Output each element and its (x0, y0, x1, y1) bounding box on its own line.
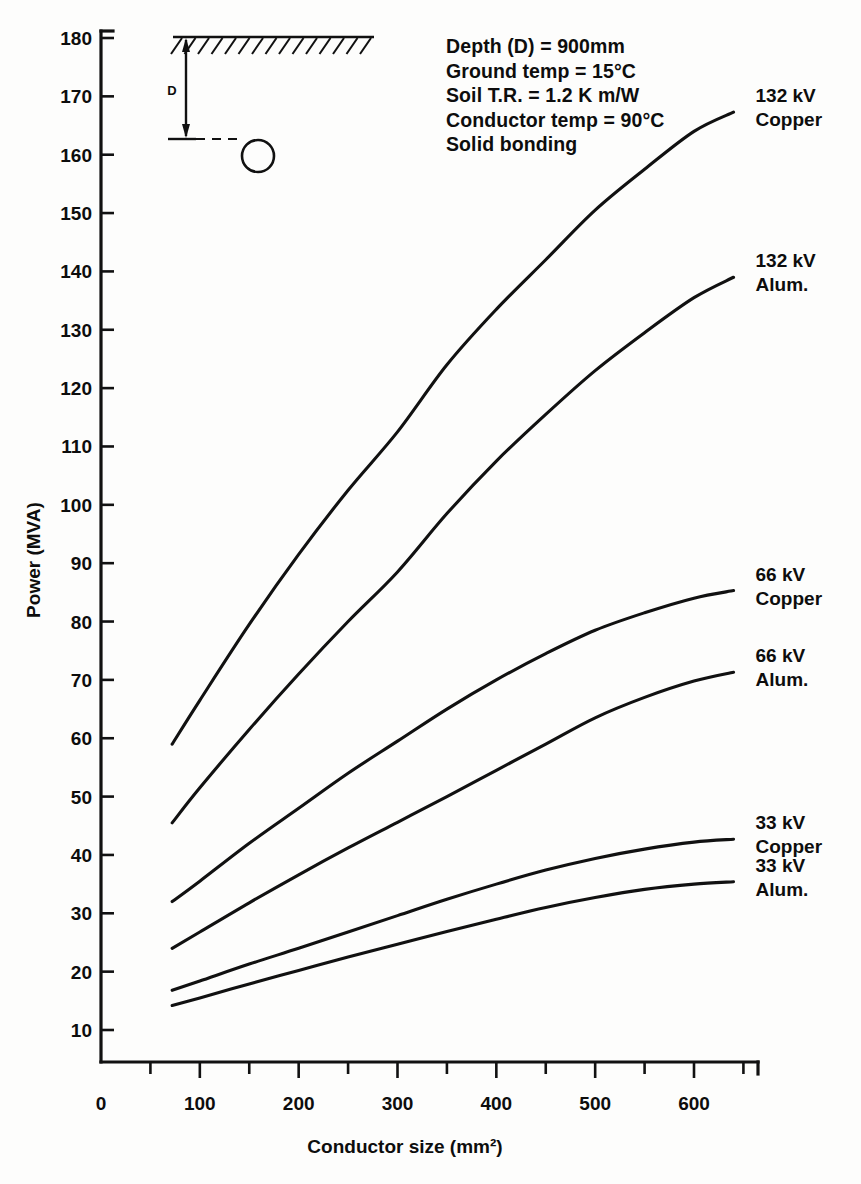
hatch-stroke (252, 38, 263, 54)
y-tick-label: 130 (60, 320, 92, 341)
depth-arrow-down-icon (182, 124, 190, 138)
series-curve (172, 839, 733, 990)
series-labels: 132 kVCopper132 kVAlum.66 kVCopper66 kVA… (756, 85, 823, 900)
annotation-line: Soil T.R. = 1.2 K m/W (446, 84, 640, 106)
y-tick-label: 170 (60, 86, 92, 107)
y-tick-label: 150 (60, 203, 92, 224)
series-curve (172, 112, 733, 744)
depth-arrow-up-icon (182, 38, 190, 52)
y-tick-label: 80 (71, 612, 92, 633)
series-label-line: Alum. (756, 669, 809, 690)
hatch-stroke (306, 38, 317, 54)
hatch-stroke (198, 38, 209, 54)
y-tick-label: 110 (61, 436, 92, 457)
axes-group (101, 31, 758, 1074)
x-tick-label: 100 (184, 1093, 216, 1114)
hatch-stroke (333, 38, 344, 54)
annotation-line: Ground temp = 15°C (446, 60, 636, 82)
inset-depth-label: D (167, 83, 176, 98)
series-label-line: 132 kV (756, 250, 817, 271)
hatch-stroke (360, 38, 371, 54)
hatch-stroke (266, 38, 277, 54)
hatch-stroke (347, 38, 358, 54)
series-label-line: Alum. (756, 274, 809, 295)
hatch-stroke (212, 38, 223, 54)
ground-hatching-icon (171, 38, 371, 54)
x-tick-label: 500 (579, 1093, 611, 1114)
y-tick-label: 40 (71, 845, 92, 866)
series-curves (172, 112, 733, 1005)
y-tick-label: 30 (71, 903, 92, 924)
series-label-group: 132 kVAlum. (756, 250, 817, 295)
y-tick-label: 90 (71, 553, 92, 574)
x-tick-label: 400 (480, 1093, 512, 1114)
hatch-stroke (320, 38, 331, 54)
y-tick-label: 100 (60, 495, 92, 516)
chart-figure: 1020304050607080901001101201301401501601… (0, 0, 861, 1184)
x-tick-label: 600 (678, 1093, 710, 1114)
series-label-line: 33 kV (756, 855, 806, 876)
y-tick-label: 140 (60, 261, 92, 282)
series-curve (172, 672, 733, 948)
series-label-line: Alum. (756, 879, 809, 900)
series-label-line: 33 kV (756, 812, 806, 833)
y-tick-label: 160 (60, 145, 92, 166)
y-tick-label: 60 (71, 728, 92, 749)
series-label-group: 66 kVCopper (756, 564, 823, 609)
hatch-stroke (293, 38, 304, 54)
series-label-group: 66 kVAlum. (756, 645, 809, 690)
cable-circle-icon (242, 140, 274, 172)
y-axis-ticks: 1020304050607080901001101201301401501601… (60, 28, 114, 1041)
hatch-stroke (279, 38, 290, 54)
series-label-line: 66 kV (756, 645, 806, 666)
x-tick-label: 200 (283, 1093, 315, 1114)
x-axis-title: Conductor size (mm²) (307, 1136, 502, 1157)
x-axis-ticks: 0100200300400500600 (96, 1062, 744, 1114)
series-label-group: 33 kVAlum. (756, 855, 809, 900)
series-label-line: 66 kV (756, 564, 806, 585)
series-curve (172, 591, 733, 902)
y-tick-label: 70 (71, 670, 92, 691)
series-label-line: Copper (756, 588, 823, 609)
annotation-line: Conductor temp = 90°C (446, 109, 664, 131)
y-tick-label: 180 (60, 28, 92, 49)
chart-canvas: 1020304050607080901001101201301401501601… (0, 0, 861, 1184)
hatch-stroke (225, 38, 236, 54)
series-label-group: 132 kVCopper (756, 85, 823, 130)
y-tick-label: 120 (60, 378, 92, 399)
series-label-line: Copper (756, 109, 823, 130)
y-tick-label: 20 (71, 962, 92, 983)
burial-depth-inset: D (167, 37, 374, 172)
annotation-line: Solid bonding (446, 133, 577, 155)
y-tick-label: 50 (71, 787, 92, 808)
conditions-annotation: Depth (D) = 900mmGround temp = 15°CSoil … (446, 35, 664, 155)
y-tick-label: 10 (71, 1020, 92, 1041)
hatch-stroke (171, 38, 182, 54)
annotation-line: Depth (D) = 900mm (446, 35, 625, 57)
series-label-group: 33 kVCopper (756, 812, 823, 857)
x-tick-label: 0 (96, 1093, 107, 1114)
series-label-line: 132 kV (756, 85, 817, 106)
x-tick-label: 300 (382, 1093, 414, 1114)
y-axis-title: Power (MVA) (23, 502, 44, 618)
hatch-stroke (239, 38, 250, 54)
